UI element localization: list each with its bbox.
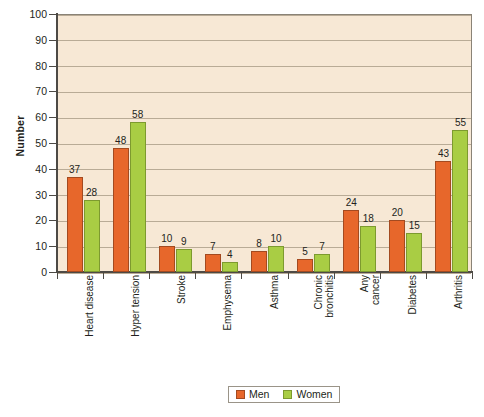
- bar-value-label: 4: [217, 250, 243, 260]
- y-tick-label: 0: [3, 267, 47, 277]
- bar-value-label: 7: [309, 242, 335, 252]
- bar-group: 74: [205, 14, 238, 272]
- category-label: Emphysema: [222, 275, 233, 367]
- x-tick-mark: [426, 272, 427, 279]
- bar-group: 2015: [389, 14, 422, 272]
- bar-group: 4355: [435, 14, 468, 272]
- bar-group: 57: [297, 14, 330, 272]
- y-tick-label: 70: [3, 86, 47, 96]
- legend-label: Women: [296, 389, 332, 400]
- bar-women[interactable]: [360, 226, 376, 272]
- bar-women[interactable]: [452, 130, 468, 272]
- page-edge-artifact: [0, 410, 484, 417]
- bar-value-label: 9: [171, 237, 197, 247]
- y-tick-label: 90: [3, 35, 47, 45]
- x-tick-mark: [57, 272, 58, 279]
- bar-value-label: 37: [62, 165, 88, 175]
- legend-item[interactable]: Men: [236, 389, 269, 400]
- bar-men[interactable]: [159, 246, 175, 272]
- bar-men[interactable]: [297, 259, 313, 272]
- y-tick-label: 20: [3, 215, 47, 225]
- legend-label: Men: [249, 389, 269, 400]
- bar-group: 3728: [67, 14, 100, 272]
- legend-item[interactable]: Women: [283, 389, 332, 400]
- category-label: Arthritis: [453, 275, 464, 367]
- bar-group: 810: [251, 14, 284, 272]
- bar-group: 109: [159, 14, 192, 272]
- bar-women[interactable]: [222, 262, 238, 272]
- y-tick-label: 10: [3, 241, 47, 251]
- bars-layer: 372848581097481057241820154355: [57, 14, 472, 272]
- bar-women[interactable]: [268, 246, 284, 272]
- bar-women[interactable]: [176, 249, 192, 272]
- bar-men[interactable]: [113, 148, 129, 272]
- bar-women[interactable]: [406, 233, 422, 272]
- bar-women[interactable]: [130, 122, 146, 272]
- bar-value-label: 20: [384, 208, 410, 218]
- category-label: Any cancer: [359, 275, 381, 367]
- category-label: Heart disease: [84, 275, 95, 367]
- y-tick-label: 100: [3, 9, 47, 19]
- x-tick-mark: [288, 272, 289, 279]
- category-label: Chronic bronchitis: [313, 275, 335, 367]
- y-tick-label: 30: [3, 190, 47, 200]
- bar-group: 2418: [343, 14, 376, 272]
- bar-group: 4858: [113, 14, 146, 272]
- bar-women[interactable]: [84, 200, 100, 272]
- x-tick-mark: [195, 272, 196, 279]
- y-axis-title: Number: [14, 96, 26, 176]
- category-label: Hyper tension: [130, 275, 141, 367]
- x-tick-mark: [149, 272, 150, 279]
- x-axis-category-labels: Heart diseaseHyper tensionStrokeEmphysem…: [57, 279, 473, 371]
- bar-value-label: 10: [263, 234, 289, 244]
- bar-men[interactable]: [251, 251, 267, 272]
- legend-swatch-women: [283, 390, 292, 399]
- y-tick-label: 80: [3, 61, 47, 71]
- chart-legend: MenWomen: [228, 386, 340, 403]
- bar-chart-figure: 0102030405060708090100 Number 3728485810…: [0, 0, 484, 417]
- legend-swatch-men: [236, 390, 245, 399]
- bar-value-label: 28: [79, 188, 105, 198]
- x-tick-mark: [241, 272, 242, 279]
- category-label: Asthma: [269, 275, 280, 367]
- bar-men[interactable]: [435, 161, 451, 272]
- bar-value-label: 24: [338, 198, 364, 208]
- bar-value-label: 55: [447, 118, 473, 128]
- bar-value-label: 58: [125, 110, 151, 120]
- x-tick-mark: [103, 272, 104, 279]
- bar-women[interactable]: [314, 254, 330, 272]
- bar-value-label: 15: [401, 221, 427, 231]
- category-label: Stroke: [176, 275, 187, 367]
- bar-value-label: 18: [355, 214, 381, 224]
- x-tick-mark: [472, 272, 473, 279]
- category-label: Diabetes: [407, 275, 418, 367]
